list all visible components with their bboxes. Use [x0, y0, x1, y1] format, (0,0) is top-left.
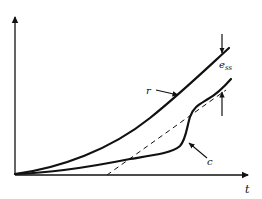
response-diagram: t ess r c	[0, 0, 262, 199]
c-annotation: c	[189, 143, 213, 167]
curve-c	[15, 79, 231, 174]
r-label: r	[146, 85, 152, 96]
axes: t	[15, 17, 250, 196]
c-label: c	[207, 156, 213, 167]
error-label: ess	[219, 59, 233, 72]
r-annotation: r	[146, 85, 178, 96]
r-pointer-arrow-icon	[156, 90, 178, 95]
error-indicator: ess	[219, 34, 233, 116]
x-axis-label: t	[245, 183, 250, 196]
c-pointer-arrow-icon	[189, 143, 207, 158]
error-label-subscript: ss	[225, 64, 233, 72]
